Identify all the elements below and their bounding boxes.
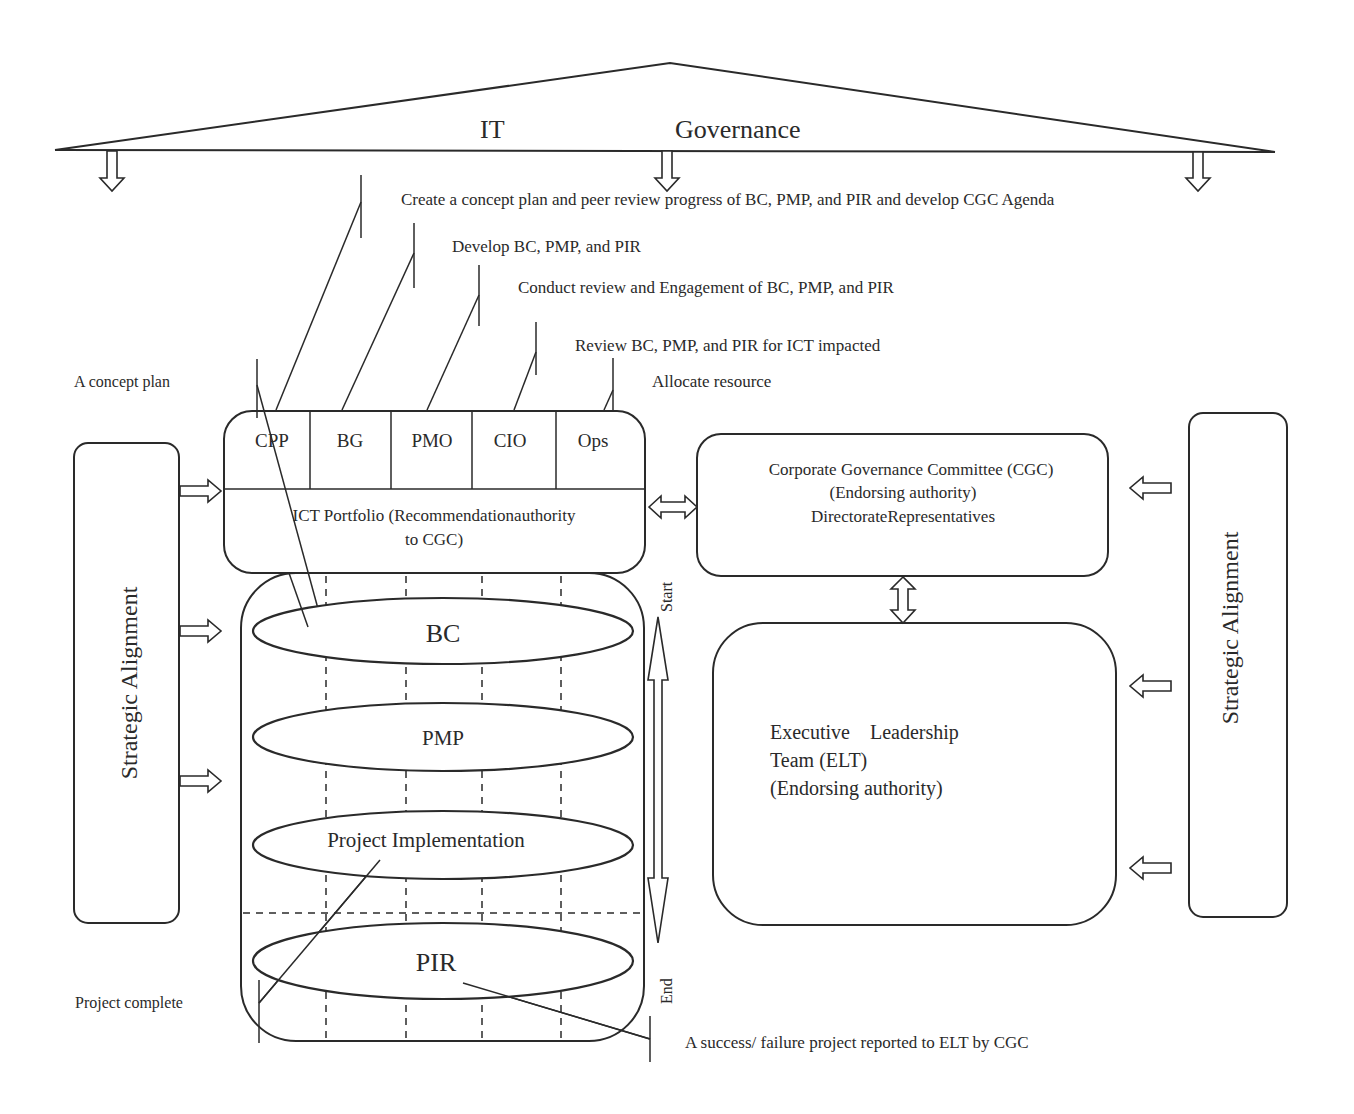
- left-right-arrows: [180, 480, 221, 792]
- elt-line-1: Executive Leadership: [770, 721, 959, 744]
- roof-down-arrow-center: [655, 151, 679, 191]
- role-pmo: PMO: [411, 430, 452, 451]
- callout-develop: Develop BC, PMP, and PIR: [452, 237, 642, 256]
- cgc-line-2: (Endorsing authority): [830, 483, 977, 502]
- role-bg: BG: [337, 430, 364, 451]
- start-end-double-arrow: Start End: [648, 581, 675, 1004]
- strategic-alignment-right-label: Strategic Alignment: [1217, 531, 1243, 724]
- portfolio-cgc-double-arrow: [649, 496, 697, 518]
- callout-project-complete: Project complete: [75, 994, 183, 1012]
- elt-line-2: Team (ELT): [770, 749, 867, 772]
- callout-success-failure: A success/ failure project reported to E…: [685, 1033, 1029, 1052]
- start-label: Start: [658, 581, 675, 612]
- portfolio-line-1: ICT Portfolio (Recommendationauthority: [293, 506, 576, 525]
- stage-pir-label: PIR: [416, 948, 457, 977]
- project-lifecycle-container: BC PMP Project Implementation PIR: [241, 573, 644, 1041]
- cgc-elt-double-arrow: [891, 577, 915, 623]
- role-cio: CIO: [494, 430, 527, 451]
- end-label: End: [658, 978, 675, 1004]
- strategic-alignment-right: Strategic Alignment: [1189, 413, 1287, 917]
- stage-project-implementation-label: Project Implementation: [327, 828, 525, 852]
- role-cpp: CPP: [255, 430, 289, 451]
- strategic-alignment-left: Strategic Alignment: [74, 443, 179, 923]
- governance-title-it: IT: [480, 115, 505, 144]
- stage-pmp-label: PMP: [422, 726, 464, 750]
- it-governance-diagram: IT Governance Create a concept plan and …: [0, 0, 1354, 1114]
- callout-create-concept: Create a concept plan and peer review pr…: [401, 190, 1055, 209]
- ict-portfolio-box: CPP BG PMO CIO Ops ICT Portfolio (Recomm…: [224, 411, 645, 573]
- right-left-arrows: [1130, 477, 1171, 879]
- role-ops: Ops: [578, 430, 609, 451]
- cgc-line-3: DirectorateRepresentatives: [811, 507, 995, 526]
- elt-box: Executive Leadership Team (ELT) (Endorsi…: [713, 623, 1116, 925]
- stage-bc-label: BC: [426, 619, 461, 648]
- elt-line-3: (Endorsing authority): [770, 777, 943, 800]
- roof-down-arrow-right: [1186, 152, 1210, 191]
- callout-review-ict: Review BC, PMP, and PIR for ICT impacted: [575, 336, 881, 355]
- portfolio-line-2: to CGC): [405, 530, 463, 549]
- cgc-box: Corporate Governance Committee (CGC) (En…: [697, 434, 1108, 576]
- roof-down-arrow-left: [100, 151, 124, 191]
- governance-title-governance: Governance: [675, 115, 801, 144]
- cgc-line-1: Corporate Governance Committee (CGC): [769, 460, 1054, 479]
- strategic-alignment-left-label: Strategic Alignment: [116, 586, 142, 779]
- it-governance-roof: IT Governance: [55, 63, 1275, 152]
- callout-conduct-review: Conduct review and Engagement of BC, PMP…: [518, 278, 895, 297]
- callout-concept-plan: A concept plan: [74, 373, 170, 391]
- callout-allocate: Allocate resource: [652, 372, 771, 391]
